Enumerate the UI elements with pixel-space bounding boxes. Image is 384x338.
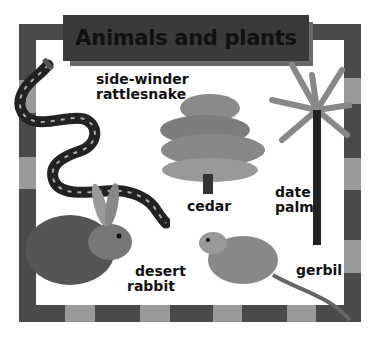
- page-title: Animals and plants: [75, 26, 296, 50]
- label-palm: date palm: [275, 185, 314, 215]
- desert-rabbit-illustration: [15, 180, 140, 290]
- frame-segment: [65, 305, 95, 322]
- label-gerbil: gerbil: [296, 263, 342, 278]
- label-rabbit: desert rabbit: [127, 264, 186, 294]
- frame-segment: [140, 305, 170, 322]
- cedar-tree-illustration: [155, 88, 270, 198]
- label-cedar: cedar: [187, 199, 231, 214]
